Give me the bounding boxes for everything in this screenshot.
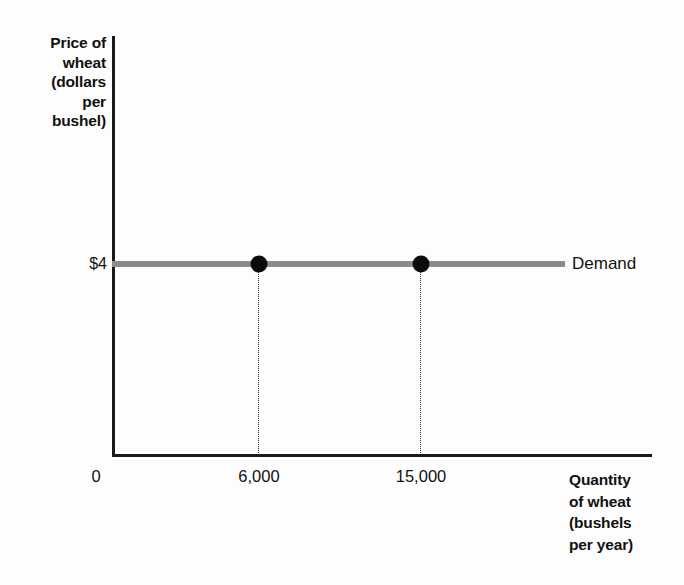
demand-series-label: Demand: [572, 253, 636, 274]
y-axis-line: [112, 36, 115, 457]
x-axis-title-line-4: per year): [569, 534, 684, 556]
y-axis-title-line-2: wheat: [0, 53, 106, 73]
demand-curve-line[interactable]: [112, 261, 565, 267]
x-axis-line: [112, 454, 652, 457]
chart-canvas: Price of wheat (dollars per bushel) $4 D…: [0, 0, 684, 585]
x-axis-tick-label-15000: 15,000: [396, 466, 446, 486]
x-axis-tick-label-6000: 6,000: [238, 466, 279, 486]
dropline-15000: [420, 266, 422, 455]
dropline-6000: [258, 266, 260, 455]
data-point-15000[interactable]: [413, 256, 430, 273]
y-axis-title-line-1: Price of: [0, 33, 106, 53]
y-axis-title-line-4: per: [0, 92, 106, 112]
y-axis-title-line-3: (dollars: [0, 72, 106, 92]
x-axis-title: Quantity of wheat (bushels per year): [569, 469, 684, 555]
y-axis-title: Price of wheat (dollars per bushel): [0, 33, 106, 131]
x-axis-title-line-2: of wheat: [569, 491, 684, 513]
dropline-15000-stroke: [420, 266, 421, 455]
data-point-6000[interactable]: [251, 256, 268, 273]
x-axis-tick-label-0: 0: [91, 466, 100, 486]
y-axis-tick-label-4: $4: [43, 254, 107, 274]
x-axis-title-line-1: Quantity: [569, 469, 684, 491]
x-axis-title-line-3: (bushels: [569, 512, 684, 534]
y-axis-title-line-5: bushel): [0, 111, 106, 131]
dropline-6000-stroke: [258, 266, 259, 455]
